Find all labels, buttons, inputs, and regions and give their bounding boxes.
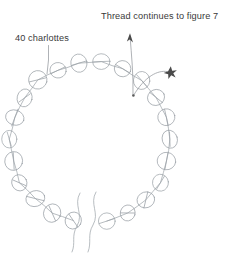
bead-thread-pass [121, 209, 135, 216]
thread-tail-1 [72, 193, 80, 252]
bead-ring [2, 53, 180, 232]
bead-label-leader-line [47, 46, 49, 75]
bead-thread-pass [19, 92, 30, 105]
bead-thread-pass [165, 109, 169, 125]
bead [69, 53, 88, 74]
bead-thread-pass [93, 61, 109, 62]
bead-thread-pass [51, 65, 65, 76]
thread-tail-2 [88, 192, 96, 252]
bead-thread-pass [140, 192, 153, 208]
bead [9, 172, 30, 193]
bead-thread-pass [115, 65, 131, 73]
bead [118, 203, 137, 222]
bead [24, 188, 47, 209]
bead-thread-pass [66, 214, 81, 227]
bead [135, 190, 157, 210]
bead [2, 130, 17, 148]
bead [3, 106, 26, 128]
bead [41, 201, 64, 225]
bead-thread-pass [13, 176, 26, 190]
bead [2, 149, 25, 172]
thread-label-arrowhead [127, 33, 133, 42]
thread-continuation-label: Thread continues to figure 7 [101, 11, 218, 22]
bead-thread-pass [166, 132, 173, 146]
bead-count-label: 40 charlottes [15, 33, 69, 44]
bead-thread-pass [12, 109, 18, 126]
bead [62, 209, 84, 232]
bead [92, 53, 110, 69]
bead [156, 151, 176, 171]
bead [145, 87, 167, 108]
bead [49, 61, 67, 79]
bead [98, 213, 115, 230]
bead-thread-pass [99, 218, 114, 223]
ring-junction-dot [132, 94, 135, 97]
bead [15, 87, 34, 108]
bead-thread-pass [29, 74, 46, 85]
bead-thread-pass [165, 152, 168, 170]
bead-thread-pass [9, 153, 19, 170]
figure-canvas: 40 charlottes Thread continues to figure… [0, 0, 235, 255]
bead [112, 58, 133, 79]
star-icon [164, 66, 177, 79]
annotation-markers [127, 33, 177, 97]
bead [160, 128, 180, 150]
thread-tails [72, 192, 96, 252]
bead [133, 71, 151, 90]
bead [152, 173, 170, 191]
bead [27, 69, 49, 91]
bead [156, 107, 176, 127]
